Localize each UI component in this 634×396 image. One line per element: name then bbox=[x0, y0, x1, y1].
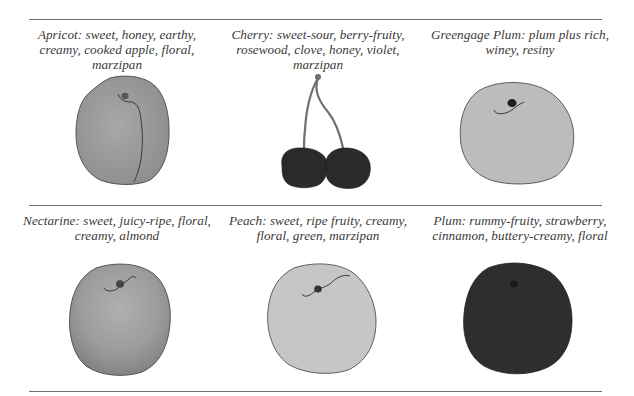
peach-caption: Peach: sweet, ripe fruity, creamy, flora… bbox=[218, 213, 418, 243]
apricot-illustration bbox=[70, 72, 174, 187]
nectarine-illustration bbox=[66, 260, 174, 378]
cherry-icon bbox=[274, 72, 382, 192]
divider-top bbox=[29, 19, 602, 20]
divider-middle bbox=[29, 205, 602, 206]
peach-icon bbox=[264, 260, 380, 376]
apricot-icon bbox=[70, 72, 174, 187]
greengage-plum-icon bbox=[458, 78, 578, 188]
plum-illustration bbox=[460, 260, 576, 376]
divider-bottom bbox=[29, 391, 602, 392]
nectarine-caption: Nectarine: sweet, juicy-ripe, floral, cr… bbox=[17, 213, 217, 243]
greengage-plum-caption: Greengage Plum: plum plus rich, winey, r… bbox=[420, 27, 620, 57]
plum-caption: Plum: rummy-fruity, strawberry, cinnamon… bbox=[420, 213, 620, 243]
greengage-plum-illustration bbox=[458, 78, 578, 188]
nectarine-icon bbox=[66, 260, 174, 378]
peach-illustration bbox=[264, 260, 380, 376]
cherry-illustration bbox=[274, 72, 382, 192]
cherry-caption: Cherry: sweet-sour, berry-fruity, rosewo… bbox=[218, 27, 418, 72]
apricot-caption: Apricot: sweet, honey, earthy, creamy, c… bbox=[17, 27, 217, 72]
plum-icon bbox=[460, 260, 576, 376]
